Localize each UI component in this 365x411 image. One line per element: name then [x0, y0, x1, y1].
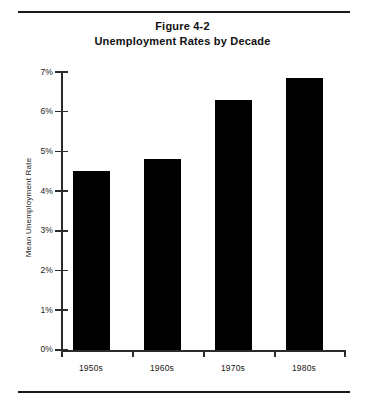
plot-area: 7% 6% 5% 4% 3% 2% 1% 0% Mean Unemploymen… [0, 0, 365, 411]
bar-1960s [144, 159, 181, 350]
y-tick-label-5: 5% [13, 146, 53, 156]
bar-1970s [215, 100, 252, 350]
y-tick-label-3: 3% [13, 225, 53, 235]
y-tick-label-2: 2% [13, 265, 53, 275]
y-tick-mark [55, 151, 68, 153]
figure-container: Figure 4-2 Unemployment Rates by Decade … [0, 0, 365, 411]
x-tick-label-1960s: 1960s [126, 363, 198, 373]
y-tick-label-4: 4% [13, 186, 53, 196]
y-tick-mark [55, 270, 68, 272]
y-tick-label-7: 7% [13, 67, 53, 77]
y-tick-mark [55, 190, 68, 192]
y-tick-mark [55, 230, 68, 232]
y-tick-mark [55, 111, 68, 113]
y-tick-label-6: 6% [13, 106, 53, 116]
x-tick-mark [61, 350, 63, 357]
x-tick-mark [203, 350, 205, 357]
x-tick-mark [132, 350, 134, 357]
y-tick-label-0: 0% [13, 344, 53, 354]
y-tick-label-1: 1% [13, 305, 53, 315]
bar-1950s [73, 171, 110, 350]
y-axis-title: Mean Unemployment Rate [24, 133, 33, 283]
x-tick-label-1970s: 1970s [197, 363, 269, 373]
y-tick-mark [55, 71, 68, 73]
x-tick-mark [274, 350, 276, 357]
x-tick-mark [344, 350, 346, 357]
x-tick-label-1950s: 1950s [55, 363, 127, 373]
y-tick-mark [55, 309, 68, 311]
x-tick-label-1980s: 1980s [268, 363, 340, 373]
bar-1980s [286, 78, 323, 350]
